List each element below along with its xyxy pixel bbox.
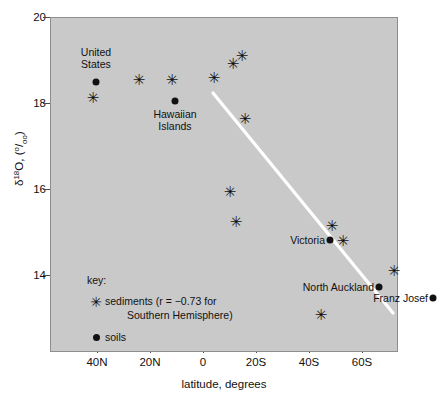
y-tick-mark-16 xyxy=(43,189,50,190)
united-states-label-line1: United xyxy=(81,46,111,58)
hawaiian-islands-label-line1: Hawaiian xyxy=(153,108,196,120)
legend: key: ✳ sediments (r = −0.73 for Southern… xyxy=(87,274,233,354)
x-tick-label-40s: 40S xyxy=(289,356,329,368)
victoria-label: Victoria xyxy=(290,234,325,246)
united-states-label-line2: States xyxy=(81,58,111,70)
x-tick-label-20n: 20N xyxy=(130,356,170,368)
hawaiian-islands-label: Hawaiian Islands xyxy=(153,108,196,132)
legend-label-soils: soils xyxy=(105,331,126,345)
y-tick-mark-14 xyxy=(43,275,50,276)
y-tick-mark-20 xyxy=(43,17,50,18)
dot-icon xyxy=(87,331,105,343)
y-axis-title-text: δ18O, (o/oo) xyxy=(13,131,25,186)
hawaiian-islands-label-line2: Islands xyxy=(153,120,196,132)
legend-row-sediments: ✳ sediments (r = −0.73 for Southern Hemi… xyxy=(87,295,233,322)
united-states-label: United States xyxy=(81,46,111,70)
y-tick-mark-18 xyxy=(43,103,50,104)
x-tick-label-40n: 40N xyxy=(77,356,117,368)
franz-josef-label: Franz Josef xyxy=(373,292,428,304)
legend-title: key: xyxy=(87,274,233,286)
asterisk-icon: ✳ xyxy=(87,295,105,310)
x-axis-title: latitude, degrees xyxy=(50,378,398,390)
north-auckland-label: North Auckland xyxy=(303,281,374,293)
legend-sediments-line2: Southern Hemisphere) xyxy=(105,309,233,323)
legend-sediments-line1: sediments (r = −0.73 for xyxy=(105,295,216,307)
x-tick-label-0: 0 xyxy=(183,356,223,368)
x-tick-label-20s: 20S xyxy=(236,356,276,368)
soil-marker-franz-josef xyxy=(430,295,437,302)
x-tick-label-60s: 60S xyxy=(342,356,382,368)
legend-label-sediments: sediments (r = −0.73 for Southern Hemisp… xyxy=(105,295,233,322)
plot-area: ✳ ✳ ✳ ✳ ✳ ✳ ✳ ✳ ✳ ✳ ✳ ✳ ✳ United States … xyxy=(50,17,398,352)
legend-row-soils: soils xyxy=(87,331,233,345)
